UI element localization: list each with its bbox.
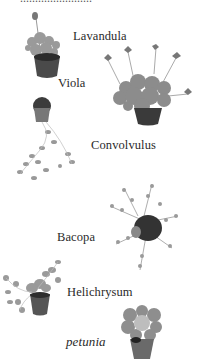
convolvulus-plant-image <box>12 96 82 188</box>
lavandula-plant-image <box>22 10 68 80</box>
label-bacopa: Bacopa <box>57 230 95 245</box>
book-page: ........................ Lavandula Viola <box>0 0 201 359</box>
bacopa-plant-image <box>102 176 184 274</box>
label-viola: Viola <box>58 76 86 91</box>
cropped-heading: ........................ <box>20 0 92 6</box>
petunia-plant-image <box>120 305 164 359</box>
label-lavandula: Lavandula <box>73 29 127 44</box>
helichrysum-plant-image <box>2 258 64 320</box>
label-petunia: petunia <box>66 334 106 350</box>
viola-plant-image <box>98 44 196 126</box>
label-helichrysum: Helichrysum <box>67 285 133 300</box>
label-convolvulus: Convolvulus <box>91 138 156 153</box>
